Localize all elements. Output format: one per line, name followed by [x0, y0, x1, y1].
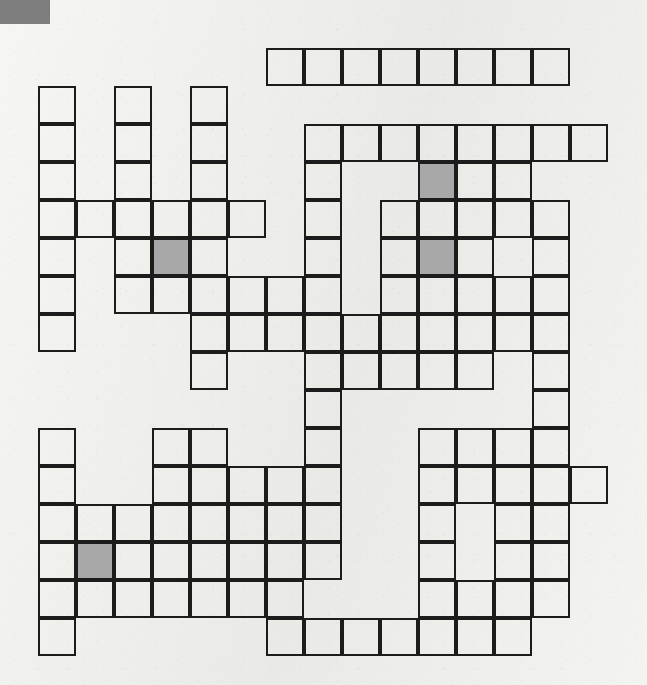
crossword-cell[interactable] [532, 466, 570, 504]
crossword-cell[interactable] [304, 390, 342, 428]
crossword-cell[interactable] [114, 86, 152, 124]
crossword-cell[interactable] [190, 428, 228, 466]
crossword-cell[interactable] [190, 542, 228, 580]
crossword-cell[interactable] [152, 504, 190, 542]
crossword-cell[interactable] [456, 48, 494, 86]
crossword-cell[interactable] [114, 238, 152, 276]
crossword-cell[interactable] [494, 504, 532, 542]
crossword-cell[interactable] [532, 428, 570, 466]
crossword-cell[interactable] [114, 200, 152, 238]
crossword-cell[interactable] [342, 124, 380, 162]
crossword-cell[interactable] [304, 428, 342, 466]
crossword-cell[interactable] [418, 428, 456, 466]
crossword-cell[interactable] [418, 618, 456, 656]
crossword-cell[interactable] [456, 352, 494, 390]
crossword-cell[interactable] [342, 48, 380, 86]
crossword-cell[interactable] [304, 200, 342, 238]
crossword-cell[interactable] [228, 314, 266, 352]
crossword-cell[interactable] [228, 466, 266, 504]
crossword-cell[interactable] [38, 542, 76, 580]
crossword-cell[interactable] [418, 580, 456, 618]
crossword-cell-shaded[interactable] [152, 238, 190, 276]
crossword-cell[interactable] [456, 200, 494, 238]
crossword-cell[interactable] [190, 352, 228, 390]
crossword-cell[interactable] [38, 86, 76, 124]
crossword-cell-shaded[interactable] [418, 162, 456, 200]
crossword-cell[interactable] [76, 504, 114, 542]
crossword-cell[interactable] [38, 580, 76, 618]
crossword-cell[interactable] [114, 124, 152, 162]
crossword-cell[interactable] [266, 48, 304, 86]
crossword-cell[interactable] [228, 580, 266, 618]
crossword-cell[interactable] [418, 466, 456, 504]
crossword-cell[interactable] [494, 200, 532, 238]
crossword-cell[interactable] [418, 276, 456, 314]
crossword-cell[interactable] [532, 542, 570, 580]
crossword-cell[interactable] [38, 238, 76, 276]
crossword-cell[interactable] [456, 580, 494, 618]
crossword-cell[interactable] [418, 504, 456, 542]
crossword-cell[interactable] [304, 352, 342, 390]
crossword-cell[interactable] [456, 428, 494, 466]
crossword-cell[interactable] [190, 276, 228, 314]
crossword-cell[interactable] [304, 276, 342, 314]
crossword-cell[interactable] [228, 276, 266, 314]
crossword-cell[interactable] [494, 124, 532, 162]
crossword-cell[interactable] [532, 48, 570, 86]
crossword-cell[interactable] [456, 618, 494, 656]
crossword-cell[interactable] [456, 238, 494, 276]
crossword-cell[interactable] [304, 48, 342, 86]
crossword-cell[interactable] [342, 314, 380, 352]
crossword-cell[interactable] [304, 162, 342, 200]
crossword-cell[interactable] [304, 238, 342, 276]
crossword-cell[interactable] [38, 200, 76, 238]
crossword-cell[interactable] [228, 200, 266, 238]
crossword-cell[interactable] [304, 542, 342, 580]
crossword-cell[interactable] [228, 504, 266, 542]
crossword-cell[interactable] [38, 124, 76, 162]
crossword-cell[interactable] [228, 542, 266, 580]
crossword-cell[interactable] [38, 618, 76, 656]
crossword-cell[interactable] [418, 124, 456, 162]
crossword-cell[interactable] [114, 504, 152, 542]
crossword-cell[interactable] [38, 428, 76, 466]
crossword-cell[interactable] [494, 542, 532, 580]
crossword-cell[interactable] [380, 200, 418, 238]
crossword-cell[interactable] [190, 162, 228, 200]
crossword-cell[interactable] [76, 200, 114, 238]
crossword-cell[interactable] [38, 504, 76, 542]
crossword-cell[interactable] [494, 580, 532, 618]
crossword-cell[interactable] [418, 314, 456, 352]
crossword-cell[interactable] [152, 200, 190, 238]
crossword-cell[interactable] [494, 466, 532, 504]
crossword-cell[interactable] [114, 276, 152, 314]
crossword-cell[interactable] [266, 466, 304, 504]
crossword-cell[interactable] [190, 504, 228, 542]
crossword-cell[interactable] [380, 618, 418, 656]
crossword-cell[interactable] [418, 200, 456, 238]
crossword-cell[interactable] [532, 352, 570, 390]
crossword-cell[interactable] [532, 314, 570, 352]
crossword-cell-shaded[interactable] [418, 238, 456, 276]
crossword-cell[interactable] [380, 124, 418, 162]
crossword-grid[interactable] [0, 0, 647, 685]
crossword-cell[interactable] [380, 314, 418, 352]
crossword-cell[interactable] [532, 200, 570, 238]
crossword-cell[interactable] [304, 314, 342, 352]
crossword-cell[interactable] [494, 314, 532, 352]
crossword-cell[interactable] [190, 124, 228, 162]
crossword-cell-shaded[interactable] [76, 542, 114, 580]
crossword-cell[interactable] [38, 162, 76, 200]
crossword-cell[interactable] [456, 466, 494, 504]
crossword-cell[interactable] [342, 352, 380, 390]
crossword-cell[interactable] [114, 580, 152, 618]
crossword-cell[interactable] [456, 124, 494, 162]
crossword-cell[interactable] [266, 504, 304, 542]
crossword-cell[interactable] [152, 542, 190, 580]
crossword-cell[interactable] [304, 124, 342, 162]
crossword-cell[interactable] [266, 618, 304, 656]
crossword-cell[interactable] [532, 580, 570, 618]
crossword-cell[interactable] [494, 276, 532, 314]
crossword-cell[interactable] [190, 314, 228, 352]
crossword-cell[interactable] [380, 238, 418, 276]
